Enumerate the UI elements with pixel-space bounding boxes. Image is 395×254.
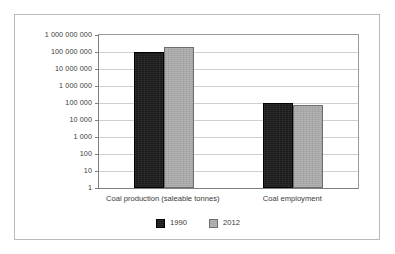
y-axis-tick <box>95 120 99 121</box>
legend-label-2012: 2012 <box>223 219 240 227</box>
legend-label-1990: 1990 <box>170 219 187 227</box>
legend-item-1990[interactable]: 1990 <box>156 219 187 228</box>
y-axis-tick-label: 1 <box>88 184 92 191</box>
y-axis-tick-label: 1 000 000 <box>59 82 92 89</box>
chart-frame: 1101001 00010 000100 0001 000 00010 000 … <box>14 14 380 240</box>
y-axis-tick-label: 10 000 000 <box>55 65 92 72</box>
y-axis-tick-label: 10 000 <box>69 116 92 123</box>
y-axis-tick-label: 1 000 <box>74 133 93 140</box>
y-axis-tick <box>95 154 99 155</box>
legend-swatch-1990 <box>156 219 165 228</box>
y-axis-tick <box>95 171 99 172</box>
y-axis-tick-labels: 1101001 00010 000100 0001 000 00010 000 … <box>15 34 92 189</box>
y-axis-tick-label: 1 000 000 000 <box>45 31 92 38</box>
x-axis-label-coal-production: Coal production (saleable tonnes) <box>98 195 228 203</box>
y-axis-tick <box>95 35 99 36</box>
x-axis-category-labels: Coal production (saleable tonnes)Coal em… <box>98 195 359 207</box>
y-axis-tick <box>95 69 99 70</box>
y-axis-tick <box>95 188 99 189</box>
legend-swatch-2012 <box>209 219 218 228</box>
x-axis-label-coal-employment: Coal employment <box>228 195 358 203</box>
y-axis-tick-label: 100 <box>80 150 92 157</box>
plot-area <box>98 34 359 189</box>
y-axis-tick <box>95 86 99 87</box>
chart-legend: 19902012 <box>15 215 381 231</box>
y-axis-tick-label: 100 000 000 <box>51 48 92 55</box>
bar-2012-employment[interactable] <box>293 105 323 188</box>
y-axis-tick <box>95 137 99 138</box>
y-axis-tick-label: 10 <box>84 167 92 174</box>
y-axis-tick-label: 100 000 <box>65 99 92 106</box>
bar-1990-production[interactable] <box>134 52 164 188</box>
bar-1990-employment[interactable] <box>263 103 293 188</box>
y-axis-tick <box>95 52 99 53</box>
bar-2012-production[interactable] <box>164 47 194 188</box>
y-axis-tick <box>95 103 99 104</box>
legend-item-2012[interactable]: 2012 <box>209 219 240 228</box>
